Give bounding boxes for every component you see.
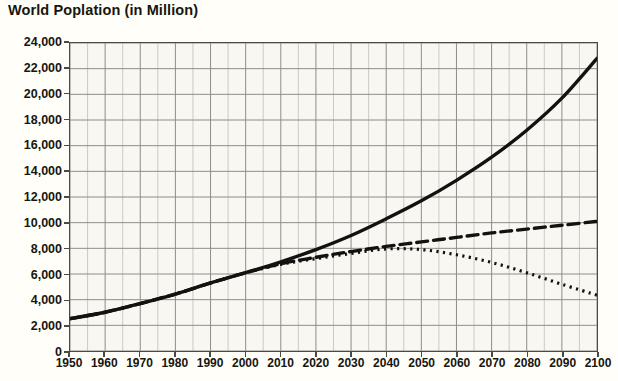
x-tick-mark: [139, 352, 141, 357]
x-tick-label: 2020: [303, 356, 330, 370]
x-tick-label: 2040: [373, 356, 400, 370]
x-tick-label: 1950: [56, 356, 83, 370]
x-tick-mark: [68, 352, 70, 357]
y-tick-label: 2,000: [31, 319, 62, 333]
x-tick-label: 1980: [161, 356, 188, 370]
x-tick-mark: [280, 352, 282, 357]
y-tick-label: 14,000: [24, 164, 62, 178]
world-population-chart: World Poplation (in Million) 02,0004,000…: [0, 0, 618, 381]
x-tick-label: 2080: [514, 356, 541, 370]
series-line-dashed: [70, 221, 597, 318]
x-tick-label: 2000: [232, 356, 259, 370]
x-tick-label: 1990: [197, 356, 224, 370]
series-line-dotted: [70, 249, 597, 319]
x-tick-label: 2030: [338, 356, 365, 370]
x-tick-mark: [386, 352, 388, 357]
x-tick-mark: [527, 352, 529, 357]
y-tick-label: 8,000: [31, 242, 62, 256]
y-tick-mark: [64, 222, 69, 224]
y-tick-mark: [64, 196, 69, 198]
y-tick-label: 16,000: [24, 138, 62, 152]
plot-area: [69, 42, 598, 352]
y-tick-label: 22,000: [24, 61, 62, 75]
y-tick-mark: [64, 274, 69, 276]
y-tick-mark: [64, 170, 69, 172]
y-tick-label: 20,000: [24, 87, 62, 101]
x-tick-mark: [174, 352, 176, 357]
y-tick-mark: [64, 41, 69, 43]
y-tick-mark: [64, 67, 69, 69]
y-tick-label: 4,000: [31, 293, 62, 307]
x-tick-mark: [421, 352, 423, 357]
y-axis-labels: 02,0004,0006,0008,00010,00012,00014,0001…: [0, 0, 62, 381]
x-tick-mark: [562, 352, 564, 357]
y-tick-label: 12,000: [24, 190, 62, 204]
x-tick-label: 1960: [91, 356, 118, 370]
y-tick-mark: [64, 145, 69, 147]
x-tick-label: 2090: [549, 356, 576, 370]
y-tick-label: 24,000: [24, 35, 62, 49]
x-tick-label: 2010: [267, 356, 294, 370]
x-tick-mark: [456, 352, 458, 357]
x-tick-mark: [103, 352, 105, 357]
x-tick-label: 2070: [479, 356, 506, 370]
y-tick-label: 10,000: [24, 216, 62, 230]
x-tick-mark: [315, 352, 317, 357]
x-tick-label: 2100: [585, 356, 612, 370]
x-tick-label: 1970: [126, 356, 153, 370]
data-series-layer: [70, 43, 597, 351]
x-tick-mark: [209, 352, 211, 357]
y-tick-mark: [64, 325, 69, 327]
y-tick-label: 18,000: [24, 113, 62, 127]
x-tick-mark: [597, 352, 599, 357]
series-line-solid: [70, 58, 597, 318]
y-tick-label: 6,000: [31, 268, 62, 282]
y-tick-mark: [64, 119, 69, 121]
x-tick-mark: [350, 352, 352, 357]
y-tick-mark: [64, 93, 69, 95]
x-tick-mark: [491, 352, 493, 357]
x-tick-label: 2060: [444, 356, 471, 370]
y-tick-mark: [64, 248, 69, 250]
y-tick-mark: [64, 300, 69, 302]
x-tick-mark: [245, 352, 247, 357]
x-tick-label: 2050: [408, 356, 435, 370]
